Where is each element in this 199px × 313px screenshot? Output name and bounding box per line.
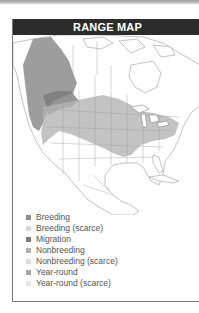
legend-item-breeding-scarce: Breeding (scarce)	[26, 223, 118, 233]
legend-label: Migration	[36, 234, 71, 244]
legend-label: Nonbreeding (scarce)	[36, 256, 118, 266]
year-round-swatch-icon	[26, 270, 31, 275]
legend-label: Breeding	[36, 212, 70, 222]
north-america-map-icon	[13, 35, 199, 215]
legend-item-nonbreeding: Nonbreeding	[26, 245, 118, 255]
top-edge	[0, 0, 199, 4]
range-map	[13, 35, 199, 215]
nonbreeding-scarce-swatch-icon	[26, 259, 31, 264]
legend-label: Breeding (scarce)	[36, 223, 103, 233]
breeding-swatch-icon	[26, 215, 31, 220]
year-round-scarce-swatch-icon	[26, 281, 31, 286]
legend-label: Year-round	[36, 267, 78, 277]
legend-item-year-round-scarce: Year-round (scarce)	[26, 278, 118, 288]
legend-item-breeding: Breeding	[26, 212, 118, 222]
migration-swatch-icon	[26, 237, 31, 242]
legend-item-year-round: Year-round	[26, 267, 118, 277]
panel-title: RANGE MAP	[13, 19, 199, 35]
nonbreeding-swatch-icon	[26, 248, 31, 253]
breeding-scarce-swatch-icon	[26, 226, 31, 231]
legend-label: Nonbreeding	[36, 245, 85, 255]
map-legend: Breeding Breeding (scarce) Migration Non…	[26, 212, 118, 289]
legend-item-nonbreeding-scarce: Nonbreeding (scarce)	[26, 256, 118, 266]
range-map-panel: RANGE MAP	[12, 19, 199, 302]
legend-label: Year-round (scarce)	[36, 278, 111, 288]
legend-item-migration: Migration	[26, 234, 118, 244]
